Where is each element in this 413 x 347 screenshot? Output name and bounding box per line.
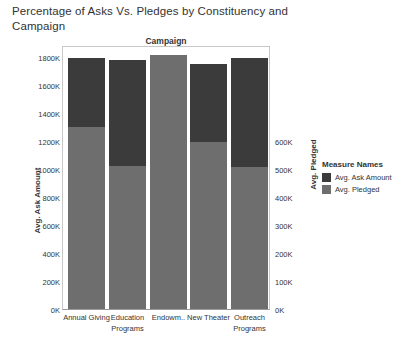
left-axis-tick: 1000K xyxy=(38,166,60,175)
left-axis: Avg. Ask Amount 1800K1600K1400K1200K1000… xyxy=(20,46,60,310)
bar-endowm[interactable] xyxy=(150,55,187,309)
bar-education-programs[interactable] xyxy=(109,60,146,309)
bar-segment-pledged[interactable] xyxy=(231,167,268,309)
legend-item-label: Avg. Pledged xyxy=(335,185,379,194)
right-axis-tick: 400K xyxy=(275,194,293,203)
right-axis-tick: 100K xyxy=(275,278,293,287)
left-axis-tick: 1400K xyxy=(38,110,60,119)
legend-item[interactable]: Avg. Ask Amount xyxy=(322,173,410,182)
legend-entries: Avg. Ask AmountAvg. Pledged xyxy=(322,173,410,194)
plot-area xyxy=(62,46,270,310)
legend-item-label: Avg. Ask Amount xyxy=(335,173,392,182)
legend-swatch-icon xyxy=(322,173,331,182)
right-axis-tick: 500K xyxy=(275,166,293,175)
chart-title: Percentage of Asks Vs. Pledges by Consti… xyxy=(12,4,312,34)
bar-segment-pledged[interactable] xyxy=(190,142,227,309)
left-axis-tick: 400K xyxy=(42,250,60,259)
x-axis-label: Outreach Programs xyxy=(224,313,276,334)
right-axis-tick: 0K xyxy=(275,306,284,315)
bars-layer xyxy=(63,47,269,309)
column-header-campaign: Campaign xyxy=(62,36,270,46)
right-axis-tick: 200K xyxy=(275,250,293,259)
left-axis-tick: 1600K xyxy=(38,82,60,91)
left-axis-tick: 800K xyxy=(42,194,60,203)
bar-segment-pledged[interactable] xyxy=(109,166,146,309)
right-axis-title: Avg. Pledged xyxy=(309,125,318,205)
left-axis-tick: 200K xyxy=(42,278,60,287)
left-axis-tick: 600K xyxy=(42,222,60,231)
bar-segment-ask-amount[interactable] xyxy=(231,58,268,167)
right-axis: 600K500K400K300K200K100K0K xyxy=(271,46,311,310)
x-axis-labels: Annual GivingEducation ProgramsEndowm..N… xyxy=(62,313,270,345)
left-axis-tick: 1800K xyxy=(38,54,60,63)
bar-new-theater[interactable] xyxy=(190,64,227,309)
bar-annual-giving[interactable] xyxy=(68,58,105,309)
left-axis-tick: 1200K xyxy=(38,138,60,147)
bar-segment-ask-amount[interactable] xyxy=(68,58,105,127)
bar-outreach-programs[interactable] xyxy=(231,58,268,309)
chart-visualization: Percentage of Asks Vs. Pledges by Consti… xyxy=(0,0,413,347)
bar-segment-ask-amount[interactable] xyxy=(190,64,227,142)
right-axis-tick: 300K xyxy=(275,222,293,231)
bar-segment-ask-amount[interactable] xyxy=(109,60,146,166)
right-axis-tick: 600K xyxy=(275,138,293,147)
legend: Measure Names Avg. Ask AmountAvg. Pledge… xyxy=(322,160,410,197)
legend-item[interactable]: Avg. Pledged xyxy=(322,185,410,194)
bar-segment-pledged[interactable] xyxy=(150,55,187,309)
left-axis-tick: 0K xyxy=(51,306,60,315)
legend-title: Measure Names xyxy=(322,160,410,169)
bar-segment-pledged[interactable] xyxy=(68,127,105,309)
legend-swatch-icon xyxy=(322,185,331,194)
